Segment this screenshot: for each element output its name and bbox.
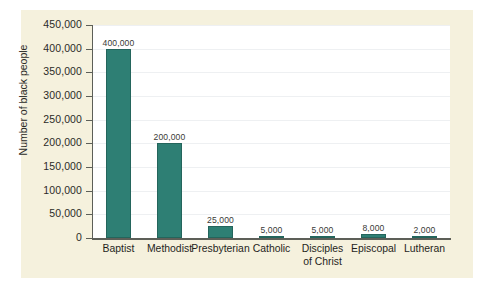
x-axis-line	[92, 238, 451, 240]
y-axis-tick	[86, 120, 93, 121]
y-axis-tick	[86, 191, 93, 192]
x-axis-category-label-line: of Christ	[277, 256, 369, 269]
bar-value-label: 2,000	[390, 225, 460, 235]
y-axis-tick-label: 450,000	[14, 18, 82, 31]
y-axis-tick	[86, 238, 93, 239]
gridline	[93, 96, 450, 97]
y-axis-tick-label: 100,000	[14, 184, 82, 197]
bar-value-label: 400,000	[84, 38, 154, 48]
y-axis-tick	[86, 72, 93, 73]
y-axis-tick-label: 400,000	[14, 42, 82, 55]
y-axis-tick-label-text: 400,000	[18, 42, 82, 54]
y-axis-tick	[86, 167, 93, 168]
gridline	[93, 167, 450, 168]
y-axis-tick-label-text: 0	[18, 231, 82, 243]
y-axis-tick-label: 250,000	[14, 113, 82, 126]
x-axis-category-label: Lutheran	[379, 243, 471, 256]
gridline	[93, 120, 450, 121]
gridline	[93, 191, 450, 192]
gridline	[93, 214, 450, 215]
y-axis-tick-label-text: 350,000	[18, 65, 82, 77]
y-axis-tick-label-text: 50,000	[18, 207, 82, 219]
y-axis-tick	[86, 143, 93, 144]
gridline	[93, 143, 450, 144]
bar	[106, 49, 131, 238]
y-axis-tick-label: 150,000	[14, 160, 82, 173]
y-axis-tick-label-text: 300,000	[18, 89, 82, 101]
y-axis-tick-label-text: 250,000	[18, 113, 82, 125]
y-axis-tick-label-text: 450,000	[18, 18, 82, 30]
y-axis-tick	[86, 25, 93, 26]
y-axis-tick-label-text: 100,000	[18, 184, 82, 196]
y-axis-tick	[86, 96, 93, 97]
x-axis-category-label-line: Lutheran	[404, 243, 445, 254]
y-axis-tick-label-text: 150,000	[18, 160, 82, 172]
chart-figure: Number of black people 450,000400,000350…	[0, 0, 495, 293]
y-axis-tick-label-text: 200,000	[18, 136, 82, 148]
y-axis-tick-label: 350,000	[14, 65, 82, 78]
gridline	[93, 72, 450, 73]
y-axis-tick	[86, 214, 93, 215]
gridline	[93, 49, 450, 50]
y-axis-tick-label: 50,000	[14, 207, 82, 220]
gridline	[93, 25, 450, 26]
y-axis-tick	[86, 49, 93, 50]
y-axis-line	[92, 25, 93, 238]
bar	[157, 143, 182, 238]
bar	[208, 226, 233, 238]
y-axis-tick-label: 200,000	[14, 136, 82, 149]
y-axis-tick-label: 300,000	[14, 89, 82, 102]
bar-value-label: 200,000	[135, 132, 205, 142]
